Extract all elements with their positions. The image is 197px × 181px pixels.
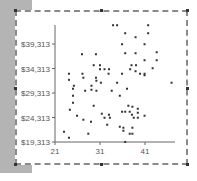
data-point bbox=[112, 24, 114, 26]
data-point bbox=[131, 106, 133, 108]
data-point bbox=[82, 119, 84, 121]
y-tick-label: $19,313 bbox=[21, 138, 50, 147]
data-point bbox=[171, 82, 173, 84]
x-tick-label: 31 bbox=[96, 147, 105, 156]
data-point bbox=[147, 24, 149, 26]
data-point bbox=[121, 43, 123, 45]
data-point bbox=[101, 113, 103, 115]
data-point bbox=[95, 90, 97, 92]
y-tick-label: $29,313 bbox=[21, 89, 50, 98]
data-point bbox=[90, 121, 92, 123]
data-point bbox=[90, 85, 92, 87]
data-point bbox=[95, 77, 97, 79]
data-point bbox=[84, 90, 86, 92]
data-point bbox=[119, 126, 121, 128]
data-point bbox=[104, 117, 106, 119]
data-point bbox=[111, 90, 113, 92]
data-point bbox=[116, 82, 118, 84]
data-point bbox=[108, 114, 110, 116]
data-point bbox=[72, 102, 74, 104]
data-point bbox=[72, 95, 74, 97]
y-tick-label: $34,313 bbox=[21, 65, 50, 74]
data-point bbox=[108, 68, 110, 70]
x-tick-label: 41 bbox=[141, 147, 150, 156]
data-point bbox=[147, 32, 149, 34]
data-point bbox=[135, 64, 137, 66]
data-point bbox=[144, 115, 146, 117]
data-point bbox=[63, 131, 65, 133]
data-point bbox=[76, 115, 78, 117]
x-tick-label: 21 bbox=[51, 147, 60, 156]
data-point bbox=[156, 59, 158, 61]
data-point bbox=[68, 137, 70, 139]
data-point bbox=[133, 117, 135, 119]
data-point bbox=[152, 67, 154, 69]
data-point bbox=[116, 24, 118, 26]
data-point bbox=[106, 124, 108, 126]
data-point bbox=[122, 130, 124, 132]
data-point bbox=[122, 127, 124, 129]
data-point bbox=[121, 73, 123, 75]
data-point bbox=[82, 77, 84, 79]
data-point bbox=[81, 73, 83, 75]
data-point bbox=[69, 109, 71, 111]
data-point bbox=[124, 111, 126, 113]
data-point bbox=[127, 105, 129, 107]
data-point bbox=[104, 68, 106, 70]
y-tick-label: $39,313 bbox=[21, 40, 50, 49]
data-point bbox=[100, 82, 102, 84]
data-point bbox=[126, 88, 128, 90]
data-point bbox=[87, 133, 89, 135]
data-point bbox=[109, 117, 111, 119]
data-point bbox=[108, 73, 110, 75]
data-point bbox=[93, 105, 95, 107]
data-point bbox=[137, 112, 139, 114]
data-point bbox=[93, 64, 95, 66]
data-point bbox=[144, 59, 146, 61]
data-point bbox=[95, 80, 97, 82]
data-point bbox=[124, 32, 126, 34]
data-point bbox=[137, 108, 139, 110]
data-point bbox=[135, 52, 137, 54]
data-points bbox=[63, 24, 173, 143]
data-point bbox=[73, 85, 75, 87]
data-point bbox=[129, 68, 131, 70]
y-tick-labels: $19,313$24,313$29,313$34,313$39,313 bbox=[21, 40, 55, 147]
data-point bbox=[99, 64, 101, 66]
data-point bbox=[131, 133, 133, 135]
data-point bbox=[119, 95, 121, 97]
data-point bbox=[72, 88, 74, 90]
data-point bbox=[90, 89, 92, 91]
data-point bbox=[156, 51, 158, 53]
data-point bbox=[99, 68, 101, 70]
data-point bbox=[68, 73, 70, 75]
data-point bbox=[137, 117, 139, 119]
data-point bbox=[129, 133, 131, 135]
data-point bbox=[129, 111, 131, 113]
data-point bbox=[135, 70, 137, 72]
scatter-plot: $19,313$24,313$29,313$34,313$39,313 2131… bbox=[0, 0, 197, 181]
data-point bbox=[131, 64, 133, 66]
data-point bbox=[81, 53, 83, 55]
data-point bbox=[139, 73, 141, 75]
data-point bbox=[124, 141, 126, 143]
x-tick-labels: 213141 bbox=[51, 142, 150, 156]
data-point bbox=[131, 114, 133, 116]
data-point bbox=[144, 43, 146, 45]
data-point bbox=[135, 36, 137, 38]
data-point bbox=[68, 79, 70, 81]
data-point bbox=[144, 74, 146, 76]
data-point bbox=[124, 52, 126, 54]
data-point bbox=[131, 127, 133, 129]
data-point bbox=[121, 111, 123, 113]
y-tick-label: $24,313 bbox=[21, 114, 50, 123]
data-point bbox=[95, 53, 97, 55]
